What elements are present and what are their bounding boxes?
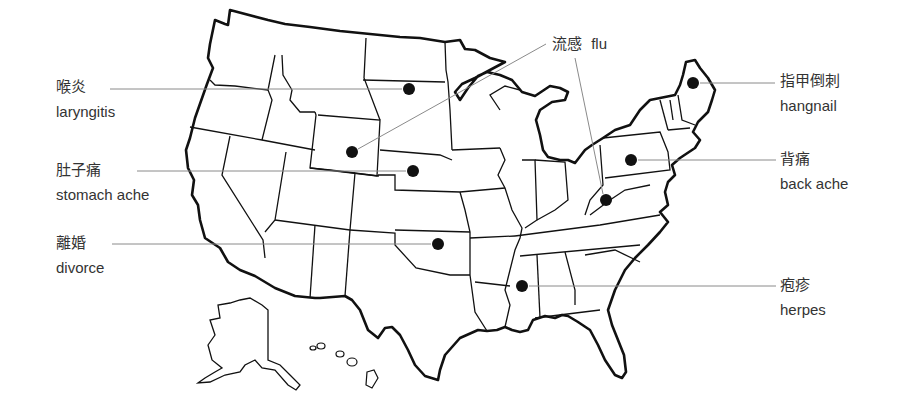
label-herpes-zh: 疱疹	[780, 276, 826, 294]
leader-flu-wyoming	[358, 44, 546, 149]
label-back-ache-en: back ache	[780, 175, 848, 193]
label-herpes-en: herpes	[780, 301, 826, 319]
marker-pennsylvania	[625, 154, 637, 166]
label-back-ache: 背痛 back ache	[780, 150, 848, 193]
state-markers	[346, 77, 699, 292]
marker-maine	[687, 77, 699, 89]
label-laryngitis: 喉炎 laryngitis	[56, 78, 115, 121]
label-flu-zh: 流感	[552, 35, 582, 53]
label-laryngitis-zh: 喉炎	[56, 78, 115, 96]
label-stomach-ache-en: stomach ache	[56, 186, 149, 204]
label-laryngitis-en: laryngitis	[56, 103, 115, 121]
label-divorce: 離婚 divorce	[56, 234, 104, 277]
leader-flu-west-virginia	[575, 58, 603, 194]
label-flu-en: flu	[591, 35, 607, 52]
marker-north-dakota	[403, 83, 415, 95]
label-hangnail-zh: 指甲倒刺	[780, 72, 840, 90]
label-stomach-ache-zh: 肚子痛	[56, 161, 149, 179]
marker-mississippi	[516, 280, 528, 292]
label-flu: 流感 flu	[552, 35, 607, 53]
label-hangnail-en: hangnail	[780, 97, 840, 115]
us-map	[0, 0, 916, 415]
label-divorce-zh: 離婚	[56, 234, 104, 252]
marker-nebraska	[407, 165, 419, 177]
label-hangnail: 指甲倒刺 hangnail	[780, 72, 840, 115]
hawaii-outline	[310, 343, 378, 388]
label-back-ache-zh: 背痛	[780, 150, 848, 168]
label-divorce-en: divorce	[56, 259, 104, 277]
state-borders	[190, 38, 695, 331]
marker-wyoming	[346, 146, 358, 158]
us-outline	[186, 10, 715, 380]
label-herpes: 疱疹 herpes	[780, 276, 826, 319]
marker-west-virginia	[600, 194, 612, 206]
label-stomach-ache: 肚子痛 stomach ache	[56, 161, 149, 204]
marker-oklahoma	[432, 238, 444, 250]
alaska-outline	[198, 298, 300, 390]
